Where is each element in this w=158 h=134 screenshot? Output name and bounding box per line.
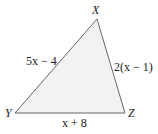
- side-yz-label: x + 8: [62, 117, 87, 129]
- vertex-x-label: X: [92, 4, 99, 16]
- vertex-z-label: Z: [128, 107, 135, 119]
- triangle-diagram: X Y Z 5x − 4 2(x − 1) x + 8: [0, 0, 158, 134]
- side-xy-label: 5x − 4: [26, 55, 57, 67]
- side-xz-label: 2(x − 1): [114, 61, 153, 73]
- vertex-y-label: Y: [5, 107, 12, 119]
